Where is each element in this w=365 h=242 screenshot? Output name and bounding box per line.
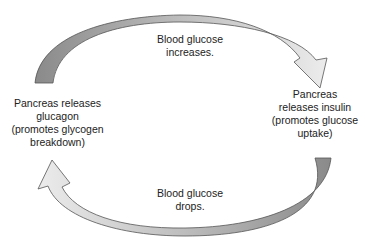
node-glucagon-release: Pancreas releases glucagon (promotes gly… — [0, 97, 115, 149]
label-glucose-drops: Blood glucose drops. — [140, 187, 240, 213]
label-glucose-increases: Blood glucose increases. — [140, 33, 240, 59]
node-insulin-release: Pancreas releases insulin (promotes gluc… — [265, 88, 365, 140]
